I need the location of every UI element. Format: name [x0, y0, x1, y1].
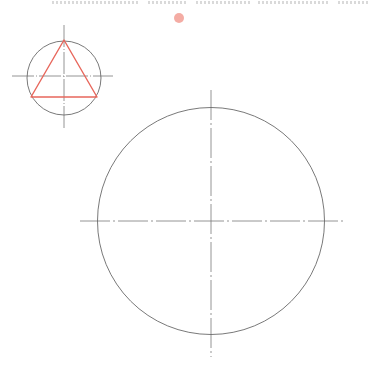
small-circle-group	[12, 25, 113, 128]
drawing-canvas	[0, 0, 380, 367]
marker-dot	[174, 13, 184, 23]
large-circle-group	[80, 90, 344, 357]
